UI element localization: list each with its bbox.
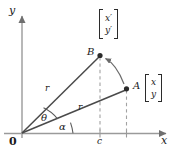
segment-oa-label: r <box>78 103 82 112</box>
vector-b-top: x′ <box>105 12 112 24</box>
y-axis-label: y <box>9 5 15 16</box>
segment-oa <box>22 90 127 134</box>
bracket-right-b <box>114 9 118 39</box>
origin-label: 0 <box>9 136 17 147</box>
rotation-diagram: y x 0 c B A x′ y′ x y r r θ α <box>0 0 176 158</box>
point-b-label: B <box>87 47 94 57</box>
angle-theta-label: θ <box>41 113 47 123</box>
angle-alpha-label: α <box>59 122 66 132</box>
vector-a-bottom: y <box>151 88 156 100</box>
angle-arc-alpha <box>71 123 74 134</box>
segment-ob-label: r <box>45 84 49 93</box>
vector-a-top: x <box>151 76 156 88</box>
vector-a: x y <box>145 74 162 102</box>
x-axis-label: x <box>161 135 167 146</box>
x-tick-label-c: c <box>97 137 102 146</box>
vector-b-bottom: y′ <box>105 24 112 36</box>
point-b-dot <box>97 53 102 58</box>
vector-b: x′ y′ <box>99 9 118 39</box>
point-a-dot <box>124 86 129 91</box>
rotation-arrow <box>106 59 125 85</box>
point-a-label: A <box>133 81 140 91</box>
bracket-right-a <box>158 74 162 102</box>
